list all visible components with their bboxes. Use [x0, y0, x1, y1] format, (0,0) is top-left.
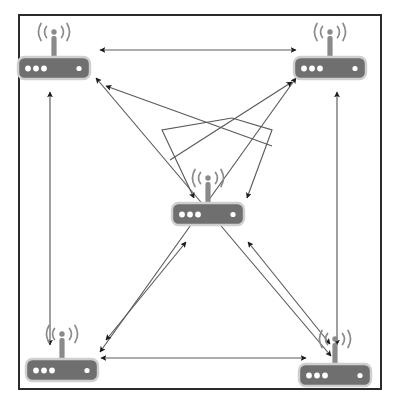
network-topology-diagram	[0, 0, 398, 408]
topology-canvas	[0, 0, 398, 408]
